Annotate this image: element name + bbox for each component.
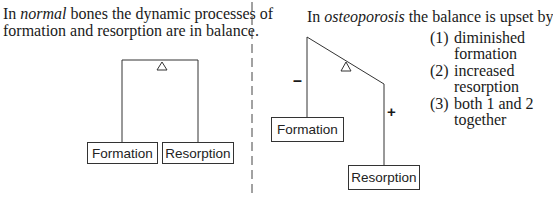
list-item-number: (2) xyxy=(430,62,449,79)
caption-emphasis: normal xyxy=(20,5,66,22)
caption-text: In xyxy=(307,8,324,25)
list-item-text: resorption xyxy=(454,78,519,95)
normal-caption-line2: formation and resorption are in balance. xyxy=(3,22,259,39)
caption-emphasis: osteoporosis xyxy=(324,8,404,25)
caption-text: In xyxy=(3,5,20,22)
osteoporosis-resorption-box: Resorption xyxy=(348,165,420,190)
plus-sign: + xyxy=(387,103,396,120)
list-item-text: together xyxy=(454,111,506,128)
list-item-text: increased xyxy=(454,62,514,79)
normal-fulcrum-triangle-icon xyxy=(157,62,167,70)
osteoporosis-balance-beam xyxy=(307,37,384,165)
minus-sign: – xyxy=(293,72,302,90)
osteoporosis-caption: In osteoporosis the balance is upset by xyxy=(307,8,553,25)
normal-caption-line1: In normal bones the dynamic processes of xyxy=(3,5,273,22)
normal-formation-box: Formation xyxy=(87,142,158,164)
list-item-text: diminished xyxy=(454,29,525,46)
normal-resorption-box: Resorption xyxy=(162,142,234,164)
caption-text: the balance is upset by xyxy=(405,8,553,25)
list-item-number: (3) xyxy=(430,95,449,112)
caption-text: bones the dynamic processes of xyxy=(67,5,274,22)
osteoporosis-formation-box: Formation xyxy=(271,117,344,142)
list-item-text: both 1 and 2 xyxy=(454,95,534,112)
list-item-number: (1) xyxy=(430,29,449,46)
list-item-text: formation xyxy=(454,45,517,62)
normal-balance-beam xyxy=(122,60,198,142)
